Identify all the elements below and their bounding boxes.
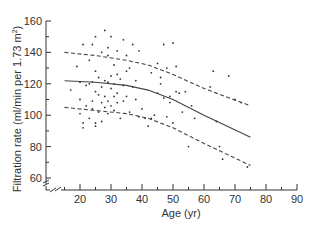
filtration-rate-chart: 60801001201401602030405060708090 Age (yr… bbox=[0, 0, 309, 228]
data-point bbox=[70, 89, 72, 91]
data-point bbox=[85, 85, 87, 87]
data-point bbox=[101, 102, 103, 104]
data-point bbox=[160, 83, 162, 85]
data-point bbox=[110, 75, 112, 77]
data-point bbox=[123, 39, 125, 41]
data-point bbox=[163, 97, 165, 99]
y-tick-label: 80 bbox=[30, 141, 42, 153]
data-point bbox=[116, 92, 118, 94]
data-point bbox=[160, 77, 162, 79]
data-point bbox=[172, 42, 174, 44]
x-tick-label: 20 bbox=[74, 193, 86, 205]
data-point bbox=[175, 66, 177, 68]
data-point bbox=[116, 74, 118, 76]
data-point bbox=[107, 47, 109, 49]
data-point bbox=[79, 99, 81, 101]
data-point bbox=[150, 72, 152, 74]
data-point bbox=[126, 70, 128, 72]
x-tick-label: 70 bbox=[229, 193, 241, 205]
x-axis-line bbox=[46, 187, 297, 192]
data-point bbox=[247, 166, 249, 168]
data-point bbox=[219, 146, 221, 148]
data-point bbox=[92, 108, 94, 110]
data-point bbox=[92, 81, 94, 83]
data-point bbox=[150, 117, 152, 119]
data-point bbox=[104, 107, 106, 109]
y-tick-label: 100 bbox=[24, 109, 42, 121]
y-tick-label: 160 bbox=[24, 15, 42, 27]
data-point bbox=[172, 122, 174, 124]
axis-break-icon bbox=[43, 180, 49, 190]
data-point bbox=[240, 102, 242, 104]
data-point bbox=[188, 146, 190, 148]
data-point bbox=[123, 85, 125, 87]
data-point bbox=[101, 52, 103, 54]
data-point bbox=[163, 44, 165, 46]
data-point bbox=[169, 102, 171, 104]
data-point bbox=[88, 117, 90, 119]
data-point bbox=[95, 122, 97, 124]
data-point bbox=[166, 116, 168, 118]
x-tick-label: 50 bbox=[167, 193, 179, 205]
x-tick-label: 40 bbox=[136, 193, 148, 205]
data-point bbox=[79, 81, 81, 83]
data-point bbox=[88, 83, 90, 85]
data-point bbox=[169, 96, 171, 98]
data-point bbox=[178, 92, 180, 94]
data-point bbox=[107, 55, 109, 57]
upper-line bbox=[65, 52, 251, 105]
data-point bbox=[135, 80, 137, 82]
data-point bbox=[107, 81, 109, 83]
plot-area bbox=[65, 30, 251, 168]
data-point bbox=[92, 44, 94, 46]
y-tick-label: 120 bbox=[24, 78, 42, 90]
x-tick-label: 30 bbox=[105, 193, 117, 205]
data-point bbox=[216, 121, 218, 123]
data-point bbox=[104, 96, 106, 98]
data-point bbox=[228, 75, 230, 77]
data-point bbox=[157, 92, 159, 94]
data-point bbox=[181, 111, 183, 113]
data-point bbox=[76, 66, 78, 68]
lower-line bbox=[65, 107, 251, 165]
data-point bbox=[194, 117, 196, 119]
data-point bbox=[101, 121, 103, 123]
data-point bbox=[141, 108, 143, 110]
data-point bbox=[123, 100, 125, 102]
x-tick-label: 80 bbox=[260, 193, 272, 205]
data-point bbox=[175, 91, 177, 93]
data-point bbox=[107, 100, 109, 102]
y-axis-title: Filtration rate (ml/min per 1.73 m2) bbox=[11, 26, 23, 193]
data-point bbox=[92, 100, 94, 102]
data-point bbox=[129, 111, 131, 113]
data-point bbox=[98, 111, 100, 113]
data-point bbox=[82, 44, 84, 46]
data-point bbox=[95, 70, 97, 72]
data-point bbox=[212, 70, 214, 72]
data-point bbox=[98, 77, 100, 79]
data-point bbox=[157, 63, 159, 65]
data-point bbox=[113, 83, 115, 85]
data-point bbox=[101, 86, 103, 88]
data-point bbox=[119, 117, 121, 119]
data-point bbox=[82, 122, 84, 124]
data-point bbox=[113, 64, 115, 66]
data-point bbox=[138, 50, 140, 52]
data-point bbox=[126, 55, 128, 57]
data-point bbox=[138, 116, 140, 118]
data-point bbox=[113, 96, 115, 98]
data-point bbox=[135, 99, 137, 101]
data-point bbox=[95, 91, 97, 93]
x-axis-title: Age (yr) bbox=[161, 207, 200, 219]
data-point bbox=[132, 44, 134, 46]
data-point bbox=[119, 78, 121, 80]
data-point bbox=[234, 99, 236, 101]
data-point bbox=[110, 36, 112, 38]
data-point bbox=[154, 114, 156, 116]
data-point bbox=[79, 113, 81, 115]
data-point bbox=[222, 158, 224, 160]
data-point bbox=[209, 86, 211, 88]
data-point bbox=[104, 30, 106, 32]
data-point bbox=[144, 117, 146, 119]
data-point bbox=[110, 88, 112, 90]
